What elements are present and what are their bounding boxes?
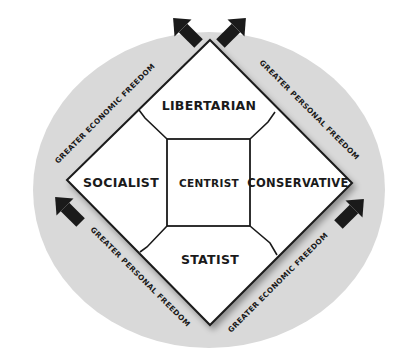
diagram-canvas: LIBERTARIAN SOCIALIST CENTRIST CONSERVAT… <box>0 0 407 353</box>
label-socialist: SOCIALIST <box>83 175 159 190</box>
label-libertarian: LIBERTARIAN <box>162 98 257 113</box>
label-centrist: CENTRIST <box>179 177 239 189</box>
label-statist: STATIST <box>181 252 239 267</box>
label-conservative: CONSERVATIVE <box>247 176 348 190</box>
nolan-chart-diagram: LIBERTARIAN SOCIALIST CENTRIST CONSERVAT… <box>0 0 407 353</box>
